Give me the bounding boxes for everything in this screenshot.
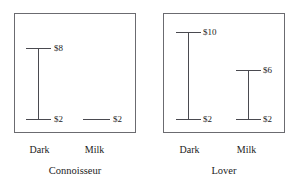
group-label-connoisseur: Connoisseur: [14, 166, 136, 177]
plot-area-lover: $10 $2 $6 $2: [164, 14, 284, 132]
value-label-lover-milk-high: $6: [263, 66, 272, 75]
panel-lover: $10 $2 $6 $2: [163, 13, 285, 133]
category-label-connoisseur-milk: Milk: [72, 145, 117, 155]
errorbar-stem-connoisseur-dark: [38, 48, 39, 119]
value-label-lover-dark-low: $2: [203, 115, 212, 124]
category-label-connoisseur-dark: Dark: [17, 145, 62, 155]
chart-figure: $8 $2 $2 Dark Milk Connoisseur $10 $2: [0, 0, 300, 189]
point-marker-connoisseur-milk: [83, 119, 110, 120]
errorbar-cap-bottom-lover-milk: [236, 119, 261, 120]
errorbar-stem-lover-dark: [188, 32, 189, 119]
category-label-lover-dark: Dark: [167, 145, 212, 155]
value-label-connoisseur-milk: $2: [113, 115, 122, 124]
panel-connoisseur: $8 $2 $2: [14, 13, 136, 133]
errorbar-cap-bottom-connoisseur-dark: [26, 119, 51, 120]
value-label-lover-milk-low: $2: [263, 115, 272, 124]
errorbar-cap-bottom-lover-dark: [176, 119, 201, 120]
value-label-connoisseur-dark-low: $2: [54, 115, 63, 124]
group-label-lover: Lover: [163, 166, 285, 177]
category-label-lover-milk: Milk: [224, 145, 269, 155]
value-label-connoisseur-dark-high: $8: [54, 44, 63, 53]
value-label-lover-dark-high: $10: [203, 28, 217, 37]
errorbar-stem-lover-milk: [248, 70, 249, 119]
plot-area-connoisseur: $8 $2 $2: [15, 14, 135, 132]
